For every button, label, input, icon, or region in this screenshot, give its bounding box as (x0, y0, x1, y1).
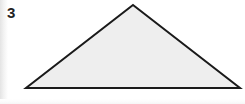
figure-canvas: 3 (0, 0, 245, 104)
triangle-shape (26, 5, 240, 88)
triangle-figure-svg (0, 0, 245, 104)
